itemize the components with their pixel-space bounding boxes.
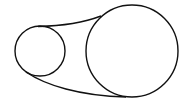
belt-pulley-diagram <box>0 0 189 104</box>
large-pulley <box>86 5 178 97</box>
small-pulley <box>15 26 65 76</box>
upper-belt <box>38 16 101 27</box>
